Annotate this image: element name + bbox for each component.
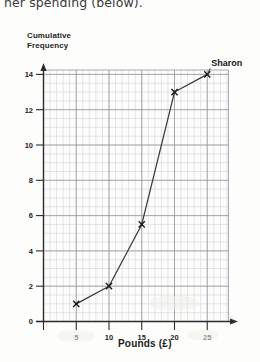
x-tick-label-10: 10	[105, 333, 113, 342]
y-tick-label-10: 10	[25, 141, 33, 150]
y-tick-label-2: 2	[29, 282, 33, 291]
y-tick-label-4: 4	[29, 247, 34, 256]
x-axis-arrowhead	[230, 318, 238, 324]
y-tick-label-0: 0	[29, 317, 33, 326]
worksheet-page: her spending (below). Cumulative Frequen…	[0, 0, 260, 362]
annotation-label-sharon: Sharon	[211, 58, 242, 68]
grid-minor-lines	[44, 70, 229, 322]
y-tick-label-14: 14	[25, 70, 34, 79]
y-tick-label-12: 12	[25, 106, 33, 115]
x-tick-label-15: 15	[138, 333, 146, 342]
x-axis-ticks: 510152025	[44, 322, 212, 342]
x-tick-label-5: 5	[74, 333, 78, 342]
y-axis-ticks: 02468101214	[25, 70, 44, 326]
axes	[36, 63, 238, 325]
cumulative-frequency-chart: 02468101214 510152025 Sharon	[0, 0, 260, 362]
y-tick-label-8: 8	[29, 176, 33, 185]
y-axis-arrowhead	[40, 63, 46, 71]
x-tick-label-25: 25	[203, 333, 211, 342]
x-tick-label-20: 20	[170, 333, 178, 342]
y-tick-label-6: 6	[29, 211, 33, 220]
